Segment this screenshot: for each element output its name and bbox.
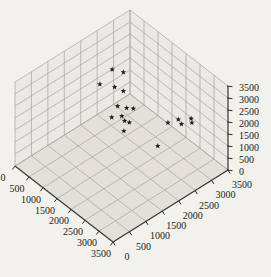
y-tick-label: 500 — [136, 241, 151, 252]
z-axis-tick — [227, 146, 233, 147]
x-tick-label: 2000 — [49, 215, 69, 226]
z-axis-tick — [227, 98, 233, 99]
x-tick-label: 3500 — [91, 248, 111, 259]
z-axis-tick — [227, 122, 233, 123]
scatter3d-canvas: 0500100015002000250030003500050010001500… — [0, 0, 271, 277]
z-axis-tick — [227, 86, 233, 87]
z-tick-label: 2500 — [239, 106, 259, 117]
x-tick-label: 500 — [10, 183, 25, 194]
x-tick-label: 2500 — [63, 226, 83, 237]
screenshot-root: 0500100015002000250030003500050010001500… — [0, 0, 271, 277]
scatter3d-figure: 0500100015002000250030003500050010001500… — [0, 0, 271, 277]
z-tick-label: 1500 — [239, 130, 259, 141]
y-tick-label: 1000 — [150, 230, 170, 241]
y-tick-label: 0 — [125, 251, 130, 262]
z-tick-label: 2000 — [239, 118, 259, 129]
y-tick-label: 2000 — [183, 210, 203, 221]
z-tick-label: 1000 — [239, 142, 259, 153]
z-tick-label: 500 — [239, 154, 254, 165]
y-tick-label: 1500 — [166, 220, 186, 231]
z-tick-label: 3500 — [239, 82, 259, 93]
x-tick-label: 1000 — [21, 194, 41, 205]
y-tick-label: 3000 — [216, 189, 236, 200]
z-tick-label: 3000 — [239, 94, 259, 105]
z-axis-tick — [227, 110, 233, 111]
x-tick-label: 1500 — [35, 205, 55, 216]
x-tick-label: 3000 — [77, 237, 97, 248]
y-tick-label: 2500 — [199, 200, 219, 211]
z-axis-tick — [227, 158, 233, 159]
x-tick-label: 0 — [1, 172, 6, 183]
y-tick-label: 3500 — [232, 179, 252, 190]
z-tick-label: 0 — [239, 166, 244, 177]
z-axis-tick — [227, 134, 233, 135]
z-axis-tick — [227, 170, 233, 171]
